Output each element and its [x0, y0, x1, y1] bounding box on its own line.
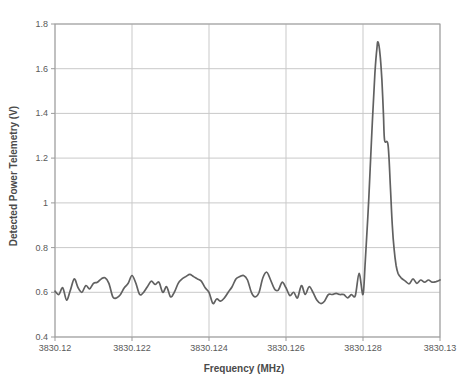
y-tick-label: 1.8 [35, 19, 48, 29]
y-axis-title: Detected Power Telemetry (V) [8, 106, 19, 246]
y-tick-label: 1.4 [35, 108, 48, 118]
x-tick-label: 3830.124 [190, 343, 228, 353]
y-tick-label: 0.4 [35, 332, 48, 342]
chart-figure: 3830.123830.1223830.1243830.1263830.1283… [0, 0, 472, 390]
plot-border [55, 24, 440, 337]
y-tick-label: 0.8 [35, 243, 48, 253]
y-tick-label: 1.6 [35, 64, 48, 74]
chart-canvas: 3830.123830.1223830.1243830.1263830.1283… [0, 0, 472, 390]
x-tick-label: 3830.126 [267, 343, 305, 353]
x-tick-label: 3830.13 [424, 343, 457, 353]
x-axis-title: Frequency (MHz) [204, 363, 285, 374]
y-tick-label: 1 [43, 198, 48, 208]
data-line [55, 42, 440, 304]
x-tick-label: 3830.128 [344, 343, 382, 353]
x-tick-label: 3830.122 [113, 343, 151, 353]
y-tick-label: 1.2 [35, 153, 48, 163]
y-tick-label: 0.6 [35, 287, 48, 297]
x-tick-label: 3830.12 [39, 343, 72, 353]
